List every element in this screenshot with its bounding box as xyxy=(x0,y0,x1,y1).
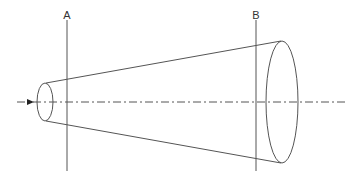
plane-b-label: B xyxy=(252,10,259,21)
frustum-diagram xyxy=(0,0,355,183)
diagram-canvas: A B xyxy=(0,0,355,183)
flow-arrow-icon xyxy=(27,99,34,105)
plane-a-label: A xyxy=(63,10,70,21)
cone-bottom-edge xyxy=(46,121,281,163)
cone-top-edge xyxy=(46,41,281,83)
